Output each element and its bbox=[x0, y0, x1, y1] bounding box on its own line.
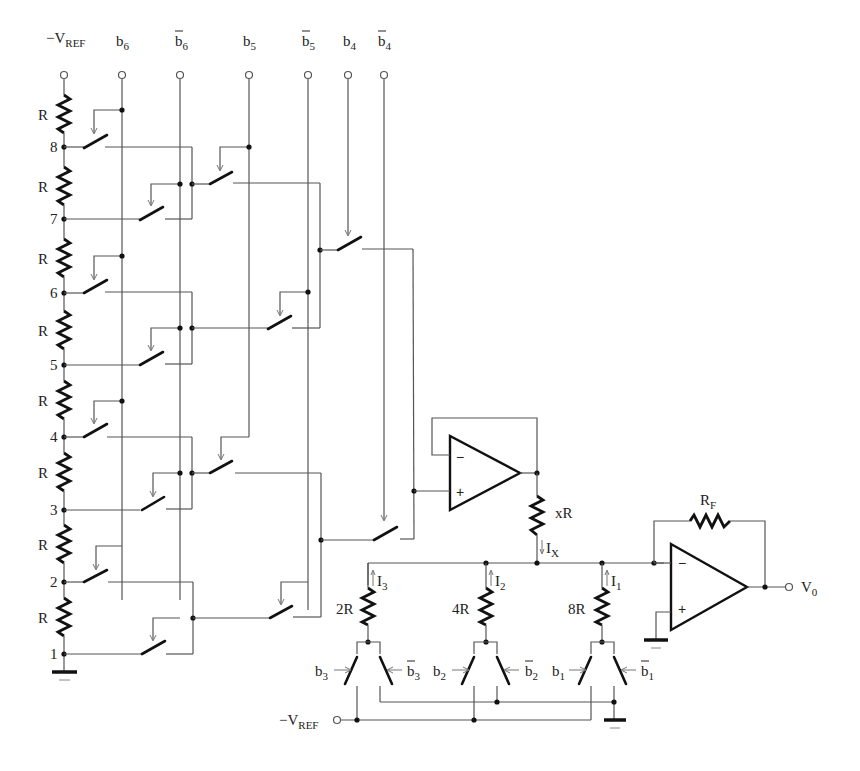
b5bar-label: b5 bbox=[302, 33, 316, 52]
resistor-rf bbox=[690, 515, 730, 527]
b6bar-label: b6 bbox=[175, 33, 189, 52]
rf-label: RF bbox=[700, 492, 716, 511]
b1-label: b1 bbox=[552, 663, 565, 682]
bottom-buses: −VREF bbox=[279, 699, 626, 731]
string-resistor-labels: R R R R R R R R bbox=[38, 107, 48, 626]
svg-text:R: R bbox=[38, 393, 48, 409]
node-label-6: 6 bbox=[50, 285, 58, 301]
node-label-5: 5 bbox=[50, 357, 58, 373]
resistor-xr bbox=[531, 496, 543, 535]
b3bar-label: b3 bbox=[407, 663, 421, 682]
top-terminal-labels: −VREF b6 b6 b5 b5 b4 b4 bbox=[46, 30, 392, 52]
resistor-r6 bbox=[58, 239, 70, 277]
b4bar-terminal bbox=[381, 72, 388, 79]
b5-label: b5 bbox=[243, 33, 257, 52]
b6-terminal bbox=[119, 72, 126, 79]
vout-label: V0 bbox=[801, 579, 818, 598]
level1-switches bbox=[64, 107, 196, 654]
vout-terminal bbox=[786, 584, 793, 591]
svg-text:R: R bbox=[38, 107, 48, 123]
node-label-7: 7 bbox=[50, 211, 58, 227]
vref-bottom-terminal bbox=[334, 717, 341, 724]
switch-s3 bbox=[142, 497, 164, 510]
node-label-8: 8 bbox=[50, 139, 58, 155]
node-label-3: 3 bbox=[50, 502, 58, 518]
resistor-r8 bbox=[58, 95, 70, 133]
vref-bottom-label: −VREF bbox=[279, 712, 318, 731]
svg-text:R: R bbox=[38, 251, 48, 267]
switch-s8 bbox=[84, 135, 107, 148]
svg-text:8R: 8R bbox=[568, 601, 586, 617]
resistor-r3 bbox=[58, 453, 70, 491]
level3-switches bbox=[320, 230, 417, 540]
resistor-2r bbox=[362, 588, 374, 625]
node-label-1: 1 bbox=[50, 646, 58, 662]
svg-text:−: − bbox=[456, 449, 464, 465]
i1-label: I1 bbox=[611, 573, 622, 592]
switch-b5-lower bbox=[210, 461, 232, 473]
b1bar-label: b1 bbox=[641, 663, 654, 682]
svg-text:R: R bbox=[38, 179, 48, 195]
top-terminals bbox=[61, 72, 388, 79]
switch-s2 bbox=[84, 570, 107, 582]
i3-label: I3 bbox=[377, 573, 388, 592]
switch-s6 bbox=[84, 280, 107, 293]
svg-text:R: R bbox=[38, 465, 48, 481]
b6bar-terminal bbox=[177, 72, 184, 79]
svg-text:R: R bbox=[38, 323, 48, 339]
vref-top-label: −VREF bbox=[46, 30, 85, 49]
branch-8r: 8R I1 b1 b1 bbox=[552, 563, 654, 720]
vref-terminal bbox=[61, 72, 68, 79]
ix-label: IX bbox=[546, 540, 559, 559]
switch-s4 bbox=[84, 424, 107, 437]
svg-text:R: R bbox=[38, 537, 48, 553]
resistor-r1 bbox=[58, 598, 70, 636]
buffer-amplifier: − + xR IX bbox=[414, 418, 573, 563]
resistor-8r bbox=[596, 588, 608, 625]
output-amplifier: − + RF V0 bbox=[644, 492, 818, 648]
resistor-r5 bbox=[58, 311, 70, 349]
xr-label: xR bbox=[555, 505, 573, 521]
node-label-2: 2 bbox=[50, 574, 58, 590]
svg-text:−: − bbox=[678, 555, 686, 571]
b6-label: b6 bbox=[116, 33, 130, 52]
switch-b5-upper bbox=[210, 172, 232, 184]
resistor-r7 bbox=[58, 167, 70, 205]
b3-label: b3 bbox=[315, 663, 329, 682]
resistor-r4 bbox=[58, 381, 70, 419]
svg-text:+: + bbox=[456, 484, 464, 500]
svg-text:2R: 2R bbox=[336, 601, 354, 617]
b4bar-label: b4 bbox=[378, 33, 392, 52]
b4-label: b4 bbox=[343, 33, 357, 52]
switch-s5 bbox=[140, 352, 163, 365]
level2-switches bbox=[192, 144, 324, 618]
switch-b5bar-upper bbox=[268, 316, 291, 329]
branch-2r: 2R I3 b3 b3 bbox=[315, 563, 421, 720]
branch-4r: 4R I2 b2 b2 bbox=[433, 563, 538, 720]
i2-label: I2 bbox=[495, 573, 506, 592]
switch-b4 bbox=[338, 237, 361, 250]
switch-s1 bbox=[142, 641, 165, 654]
b4-terminal bbox=[345, 72, 352, 79]
bit-lines bbox=[122, 79, 384, 610]
switch-s7 bbox=[140, 207, 163, 220]
b2bar-label: b2 bbox=[525, 663, 538, 682]
b5-terminal bbox=[246, 72, 253, 79]
resistor-r2 bbox=[58, 525, 70, 563]
resistor-4r bbox=[480, 588, 492, 625]
switch-b5bar-lower bbox=[270, 606, 292, 618]
svg-text:R: R bbox=[38, 610, 48, 626]
switch-b4bar bbox=[374, 527, 397, 540]
b2-label: b2 bbox=[433, 663, 446, 682]
b5bar-terminal bbox=[305, 72, 312, 79]
svg-text:4R: 4R bbox=[452, 601, 470, 617]
dac-schematic: −VREF b6 b6 b5 b5 b4 b4 bbox=[0, 0, 860, 771]
node-label-4: 4 bbox=[50, 429, 58, 445]
svg-text:+: + bbox=[678, 601, 686, 617]
